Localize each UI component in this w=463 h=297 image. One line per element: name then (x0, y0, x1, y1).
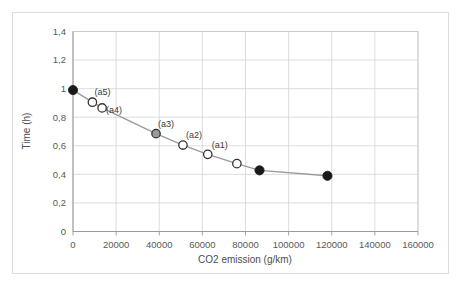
vertical-gridlines (116, 32, 418, 232)
point-annotation-label: (a2) (186, 130, 202, 140)
point-annotation-label: (a3) (158, 119, 174, 129)
y-tick-label: 1 (61, 83, 66, 94)
data-point-marker (68, 85, 77, 94)
data-point-marker (98, 104, 106, 112)
y-tick-label: 0 (61, 226, 66, 237)
data-point-marker (179, 141, 187, 149)
point-annotation-label: (a5) (94, 87, 110, 97)
data-point-marker (88, 98, 96, 106)
x-axis-tick-labels: 0200004000060000800001000001200001400001… (70, 239, 434, 250)
data-point-marker (152, 129, 160, 137)
x-tick-label: 0 (70, 239, 75, 250)
x-tick-label: 40000 (146, 239, 172, 250)
x-tick-label: 100000 (273, 239, 305, 250)
data-point-marker (255, 166, 264, 175)
scatter-line-plot: 00,20,40,60,811,21,4 0200004000060000800… (0, 0, 463, 297)
y-tick-label: 0,6 (53, 140, 66, 151)
point-annotation-label: (a1) (212, 140, 228, 150)
chart-figure: 00,20,40,60,811,21,4 0200004000060000800… (0, 0, 463, 297)
data-point-annotations: (a5)(a4)(a3)(a2)(a1) (94, 87, 227, 150)
x-axis-tick-marks (73, 232, 418, 236)
x-tick-label: 60000 (189, 239, 215, 250)
y-tick-label: 0,4 (53, 169, 66, 180)
x-axis-title: CO2 emission (g/km) (198, 254, 292, 265)
x-tick-label: 20000 (103, 239, 129, 250)
x-tick-label: 140000 (359, 239, 391, 250)
data-point-marker (233, 159, 241, 167)
x-tick-label: 80000 (232, 239, 258, 250)
x-tick-label: 160000 (402, 239, 434, 250)
y-axis-tick-labels: 00,20,40,60,811,21,4 (53, 26, 66, 237)
data-point-marker (204, 150, 212, 158)
y-tick-label: 0,8 (53, 112, 66, 123)
y-tick-label: 1,4 (53, 26, 66, 37)
y-axis-title: Time (h) (21, 113, 32, 150)
x-tick-label: 120000 (316, 239, 348, 250)
y-tick-label: 1,2 (53, 54, 66, 65)
data-point-marker (323, 171, 332, 180)
point-annotation-label: (a4) (106, 105, 122, 115)
y-tick-label: 0,2 (53, 197, 66, 208)
